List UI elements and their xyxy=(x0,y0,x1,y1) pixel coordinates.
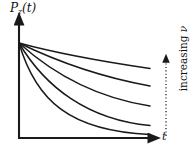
y-axis-label-main: P xyxy=(10,1,18,15)
decay-curve-4 xyxy=(19,43,150,126)
increasing-nu-label: increasing ν xyxy=(177,17,190,101)
decay-curve-5 xyxy=(19,43,150,135)
decay-curve-2 xyxy=(19,43,150,86)
x-axis-label: t xyxy=(162,131,166,142)
y-axis-label: Pz(t) xyxy=(10,2,36,15)
nu-symbol: ν xyxy=(177,26,189,32)
figure-container: Pz(t) t increasing ν xyxy=(0,0,191,154)
increasing-nu-text: increasing xyxy=(177,36,189,92)
decay-curve-1 xyxy=(19,43,150,69)
y-axis-label-suffix: (t) xyxy=(22,1,36,15)
